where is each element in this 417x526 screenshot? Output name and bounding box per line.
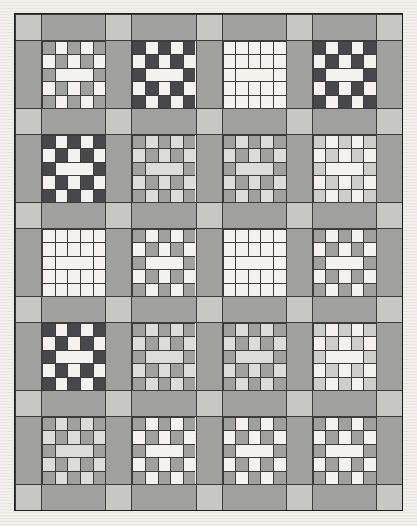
background-patch <box>93 336 106 349</box>
sashing-strip <box>312 202 376 228</box>
background-patch <box>67 175 80 188</box>
chain-patch <box>80 363 93 376</box>
chain-patch <box>223 68 236 81</box>
background-patch <box>42 54 55 67</box>
background-patch <box>260 229 273 242</box>
chain-patch <box>273 323 286 336</box>
chain-patch <box>325 242 338 255</box>
chain-patch <box>363 189 376 202</box>
chain-patch <box>145 242 158 255</box>
background-patch <box>325 95 338 108</box>
background-patch <box>351 229 364 242</box>
background-patch <box>93 363 106 376</box>
background-patch <box>183 54 196 67</box>
background-patch <box>145 283 158 296</box>
chain-patch <box>132 471 145 484</box>
background-patch <box>145 417 158 430</box>
block-r3c1 <box>41 228 105 296</box>
cornerstone <box>105 484 131 510</box>
cornerstone <box>15 108 41 134</box>
chain-patch <box>42 189 55 202</box>
center-bar-patch <box>325 68 363 81</box>
chain-patch <box>313 162 326 175</box>
chain-patch <box>273 417 286 430</box>
background-patch <box>223 81 236 94</box>
background-patch <box>132 363 145 376</box>
background-patch <box>235 471 248 484</box>
chain-patch <box>313 189 326 202</box>
background-patch <box>325 283 338 296</box>
background-patch <box>273 430 286 443</box>
sashing-strip <box>41 108 105 134</box>
background-patch <box>338 336 351 349</box>
chain-patch <box>325 175 338 188</box>
cornerstone <box>196 202 222 228</box>
chain-patch <box>158 189 171 202</box>
background-patch <box>313 242 326 255</box>
chain-patch <box>351 269 364 282</box>
block-r2c4 <box>312 134 376 202</box>
block-r3c2 <box>131 228 195 296</box>
chain-patch <box>338 323 351 336</box>
background-patch <box>235 135 248 148</box>
sashing-strip <box>286 228 312 296</box>
background-patch <box>313 457 326 470</box>
chain-patch <box>80 430 93 443</box>
chain-patch <box>93 162 106 175</box>
chain-patch <box>235 175 248 188</box>
background-patch <box>363 242 376 255</box>
chain-patch <box>42 229 55 242</box>
center-bar-patch <box>145 256 183 269</box>
background-patch <box>248 269 261 282</box>
chain-patch <box>42 283 55 296</box>
chain-patch <box>248 471 261 484</box>
chain-patch <box>67 229 80 242</box>
chain-patch <box>145 81 158 94</box>
chain-patch <box>235 457 248 470</box>
chain-patch <box>248 417 261 430</box>
background-patch <box>351 323 364 336</box>
chain-patch <box>132 162 145 175</box>
background-patch <box>132 81 145 94</box>
chain-patch <box>273 256 286 269</box>
chain-patch <box>248 189 261 202</box>
cornerstone <box>196 14 222 40</box>
background-patch <box>67 242 80 255</box>
chain-patch <box>273 189 286 202</box>
chain-patch <box>235 430 248 443</box>
block-r1c4 <box>312 40 376 108</box>
background-patch <box>273 242 286 255</box>
center-bar-patch <box>55 68 93 81</box>
cornerstone <box>286 390 312 416</box>
background-patch <box>260 377 273 390</box>
background-patch <box>42 457 55 470</box>
block-r2c2 <box>131 134 195 202</box>
background-patch <box>351 283 364 296</box>
cornerstone <box>105 296 131 322</box>
background-patch <box>55 229 68 242</box>
chain-patch <box>93 229 106 242</box>
background-patch <box>235 417 248 430</box>
cornerstone <box>286 14 312 40</box>
chain-patch <box>351 175 364 188</box>
background-patch <box>132 457 145 470</box>
background-patch <box>170 229 183 242</box>
chain-patch <box>67 135 80 148</box>
background-patch <box>170 377 183 390</box>
background-patch <box>158 269 171 282</box>
background-patch <box>158 175 171 188</box>
background-patch <box>260 189 273 202</box>
background-patch <box>363 269 376 282</box>
background-patch <box>313 363 326 376</box>
background-patch <box>158 430 171 443</box>
background-patch <box>273 54 286 67</box>
chain-patch <box>132 95 145 108</box>
center-bar-patch <box>325 444 363 457</box>
cornerstone <box>286 484 312 510</box>
chain-patch <box>183 256 196 269</box>
chain-patch <box>132 377 145 390</box>
cornerstone <box>376 390 402 416</box>
chain-patch <box>55 175 68 188</box>
chain-patch <box>183 377 196 390</box>
chain-patch <box>260 269 273 282</box>
